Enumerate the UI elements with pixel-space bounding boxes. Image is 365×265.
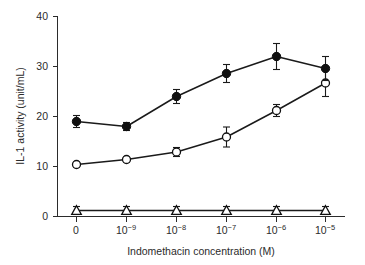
series-filled-circle [72,44,329,131]
x-tick-label-4: 10−6 [266,223,286,236]
x-tick-base-1: 10 [116,224,128,236]
x-tick-label-5: 10−5 [315,223,335,236]
x-axis-tick-labels: 0 10−9 10−8 10−7 10−6 10−5 [73,223,335,236]
data-point-open-circle-1 [123,156,131,164]
x-axis-title: Indomethacin concentration (M) [127,245,275,257]
x-tick-label-0: 0 [73,224,79,236]
series-open-triangle [72,206,331,215]
x-tick-label-3: 10−7 [216,223,236,236]
x-tick-exp-4: −6 [278,223,287,232]
data-point-filled-circle-4 [272,52,280,60]
y-axis-ticks [53,17,58,217]
x-axis-ticks [77,217,326,222]
data-point-open-circle-4 [273,107,281,115]
x-tick-base-5: 10 [315,224,327,236]
data-point-open-circle-2 [173,148,181,156]
chart-figure: 0 10 20 30 40 0 10−9 10−8 [0,0,365,265]
x-tick-exp-2: −8 [178,223,187,232]
data-point-filled-circle-0 [72,117,80,125]
y-axis-tick-labels: 0 10 20 30 40 [36,10,48,222]
x-tick-base-0: 0 [73,224,79,236]
y-tick-label-30: 30 [36,60,48,72]
series-open-circle [73,70,330,169]
x-tick-base-3: 10 [216,224,228,236]
y-tick-label-0: 0 [42,210,48,222]
chart-axes [58,16,346,217]
x-tick-label-2: 10−8 [166,223,186,236]
y-axis-title: IL-1 activity (unit/mL) [14,67,26,164]
x-tick-base-4: 10 [266,224,278,236]
y-tick-label-40: 40 [36,10,48,22]
data-point-open-circle-0 [73,161,81,169]
x-tick-label-1: 10−9 [116,223,136,236]
data-point-filled-circle-1 [122,122,130,130]
il1-activity-line-chart: 0 10 20 30 40 0 10−9 10−8 [0,0,365,265]
y-tick-label-20: 20 [36,110,48,122]
data-point-open-circle-3 [223,133,231,141]
x-tick-exp-3: −7 [228,223,237,232]
y-tick-label-10: 10 [36,160,48,172]
series-polyline [77,83,326,165]
series-polyline [77,57,326,127]
data-point-filled-circle-2 [172,92,180,100]
data-point-filled-circle-5 [321,64,329,72]
data-point-filled-circle-3 [222,69,230,77]
x-tick-exp-5: −5 [327,223,336,232]
x-tick-exp-1: −9 [128,223,137,232]
x-tick-base-2: 10 [166,224,178,236]
